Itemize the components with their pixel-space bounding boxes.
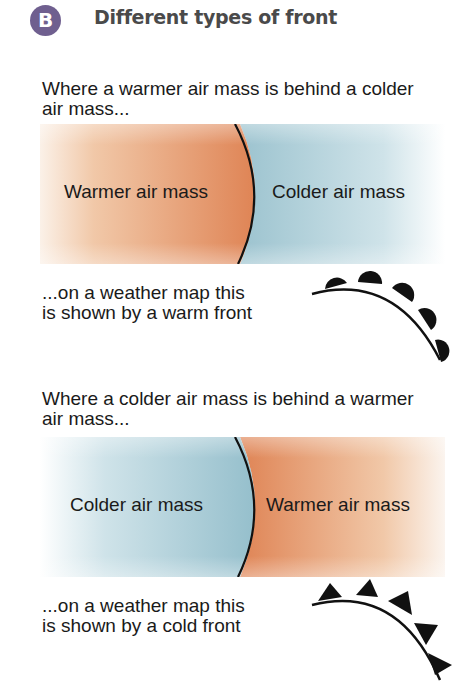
warm-intro-text: Where a warmer air mass is behind a cold… [42,79,414,119]
cold-intro-line1: Where a colder air mass is behind a warm… [42,389,414,409]
cold-front-symbol-icon [300,575,461,690]
colder-air-mass-label: Colder air mass [70,494,203,516]
warm-front-caption: ...on a weather map this is shown by a w… [42,283,252,323]
warm-intro-line1: Where a warmer air mass is behind a cold… [42,79,414,99]
cold-intro-line2: air mass... [42,409,414,429]
section-badge: B [30,5,61,36]
cold-front-panel: Colder air mass Warmer air mass [40,437,445,577]
colder-air-mass-label: Colder air mass [272,181,405,203]
cold-front-caption: ...on a weather map this is shown by a c… [42,596,245,636]
cold-intro-text: Where a colder air mass is behind a warm… [42,389,414,429]
figure-title: Different types of front [94,6,337,28]
cold-caption-line1: ...on a weather map this [42,596,245,616]
warmer-air-mass-label: Warmer air mass [64,181,208,203]
warm-intro-line2: air mass... [42,99,414,119]
warm-front-panel: Warmer air mass Colder air mass [40,124,445,264]
warm-caption-line1: ...on a weather map this [42,283,252,303]
warm-caption-line2: is shown by a warm front [42,303,252,323]
warm-front-symbol-icon [300,262,461,372]
cold-caption-line2: is shown by a cold front [42,616,245,636]
warmer-air-mass-label: Warmer air mass [266,494,410,516]
